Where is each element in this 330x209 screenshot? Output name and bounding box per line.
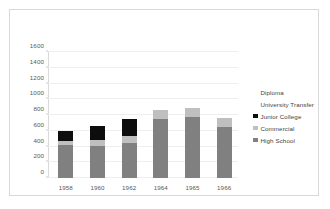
legend-entry[interactable]: University Transfer xyxy=(253,98,323,110)
bar-segment[interactable] xyxy=(58,131,73,140)
y-axis-tick-label: 1400 xyxy=(30,57,44,64)
bar-segment[interactable] xyxy=(122,143,137,178)
chart-legend: DiplomaUniversity TransferJunior College… xyxy=(253,86,323,146)
bar-segment[interactable] xyxy=(153,110,168,119)
bar-segment[interactable] xyxy=(217,127,232,178)
legend-swatch xyxy=(253,138,258,143)
x-axis-tick-label: 1964 xyxy=(153,184,168,191)
y-axis-tick-label: 800 xyxy=(33,105,44,112)
bar-segment[interactable] xyxy=(153,119,168,178)
bar-group[interactable]: 1964 xyxy=(153,110,168,178)
y-axis-tick-label: 0 xyxy=(40,168,44,175)
bar-segment[interactable] xyxy=(122,119,137,136)
bar-segment[interactable] xyxy=(122,136,137,143)
legend-label: Commercial xyxy=(261,125,295,132)
legend-entry[interactable]: High School xyxy=(253,134,323,146)
legend-swatch xyxy=(253,126,258,131)
bar-group[interactable]: 1966 xyxy=(217,118,232,178)
plot-area: 02004006008001000120014001600 1958196019… xyxy=(48,52,238,178)
bar-segment[interactable] xyxy=(58,145,73,178)
x-axis-tick-label: 1960 xyxy=(90,184,105,191)
bar-segment[interactable] xyxy=(185,117,200,178)
y-axis-tick-label: 600 xyxy=(33,120,44,127)
y-axis-tick-label: 1600 xyxy=(30,42,44,49)
y-axis-tick-label: 1000 xyxy=(30,89,44,96)
x-axis-tick-label: 1965 xyxy=(185,184,200,191)
bar-group[interactable]: 1960 xyxy=(90,126,105,178)
y-axis-tick-label: 400 xyxy=(33,136,44,143)
x-axis-tick-label: 1958 xyxy=(58,184,73,191)
chart-screenshot: 02004006008001000120014001600 1958196019… xyxy=(0,0,330,209)
bar-group[interactable]: 1962 xyxy=(122,119,137,178)
bar-segment[interactable] xyxy=(90,146,105,178)
bar-group[interactable]: 1965 xyxy=(185,108,200,178)
bar-segment[interactable] xyxy=(217,118,232,127)
legend-swatch xyxy=(253,114,258,119)
bar-segment[interactable] xyxy=(90,126,105,140)
legend-entry[interactable]: Junior College xyxy=(253,110,323,122)
y-axis-tick-label: 1200 xyxy=(30,73,44,80)
bar-segment[interactable] xyxy=(185,108,200,117)
legend-swatch xyxy=(253,102,258,107)
legend-label: High School xyxy=(261,137,295,144)
chart-figure-frame: 02004006008001000120014001600 1958196019… xyxy=(9,9,319,196)
bar-group[interactable]: 1958 xyxy=(58,131,73,178)
x-axis-tick-label: 1966 xyxy=(217,184,232,191)
legend-entry[interactable]: Diploma xyxy=(253,86,323,98)
legend-swatch xyxy=(253,90,258,95)
legend-label: University Transfer xyxy=(261,101,314,108)
legend-label: Junior College xyxy=(261,113,302,120)
legend-entry[interactable]: Commercial xyxy=(253,122,323,134)
legend-label: Diploma xyxy=(261,89,284,96)
y-axis-tick-label: 200 xyxy=(33,152,44,159)
x-axis-tick-label: 1962 xyxy=(122,184,137,191)
bar-series-container: 195819601962196419651966 xyxy=(48,52,238,178)
